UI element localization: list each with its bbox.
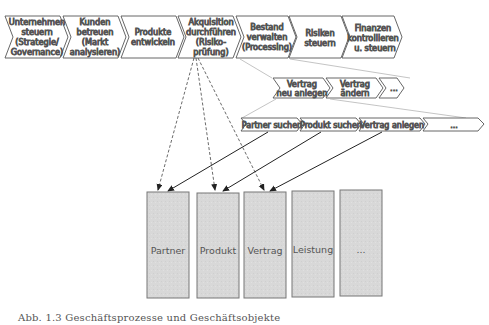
svg-text:Unternehmensteuern(Strategie/G: Unternehmensteuern(Strategie/Governance) [9, 17, 65, 57]
svg-text:Partner suchen: Partner suchen [242, 121, 302, 130]
svg-text:Leistung: Leistung [293, 244, 333, 255]
svg-text:Vertrag: Vertrag [248, 245, 283, 256]
svg-text:Produkt suchen: Produkt suchen [300, 121, 362, 130]
main-process-unternehmen-steuern[interactable]: Unternehmensteuern(Strategie/Governance) [5, 16, 68, 58]
sub-process-vertrag-aendern[interactable]: Vertragändern [326, 78, 383, 98]
sub-process-row: Vertragneu anlegen Vertragändern ... [273, 78, 404, 98]
svg-text:Vertrag anlegen: Vertrag anlegen [360, 121, 424, 130]
svg-text:Risikensteuern: Risikensteuern [304, 28, 335, 48]
process-diagram: Unternehmensteuern(Strategie/Governance)… [0, 0, 489, 325]
main-process-akquisition[interactable]: Akquisitiondurchführen(Risiko-prüfung) [178, 16, 241, 58]
step-produkt-suchen[interactable]: Produkt suchen [300, 118, 362, 131]
business-objects: Partner Produkt Vertrag Leistung ... [147, 190, 382, 298]
business-object-more[interactable]: ... [340, 190, 382, 296]
main-process-row: Unternehmensteuern(Strategie/Governance)… [5, 16, 402, 58]
svg-text:Produkt: Produkt [200, 245, 237, 256]
business-object-produkt[interactable]: Produkt [197, 193, 239, 298]
step-partner-suchen[interactable]: Partner suchen [241, 118, 302, 131]
business-object-vertrag[interactable]: Vertrag [244, 192, 286, 298]
main-process-produkte-entwickeln[interactable]: Produkteentwickeln [121, 16, 184, 58]
zoom-lines-level1 [240, 59, 410, 78]
step-row: Partner suchen Produkt suchen Vertrag an… [241, 118, 484, 131]
svg-text:Finanzenkontrollierenu. steuer: Finanzenkontrollierenu. steuern [347, 23, 398, 53]
main-process-risiken-steuern[interactable]: Risikensteuern [289, 16, 349, 58]
svg-text:Partner: Partner [151, 245, 186, 256]
main-process-bestand-verwalten[interactable]: Bestandverwalten(Processing) [236, 16, 296, 58]
main-process-kunden-betreuen[interactable]: Kundenbetreuen(Marktanalysieren) [63, 16, 126, 58]
step-vertrag-anlegen[interactable]: Vertrag anlegen [359, 118, 425, 131]
business-object-leistung[interactable]: Leistung [292, 191, 334, 297]
svg-text:...: ... [390, 83, 398, 93]
main-process-finanzen[interactable]: Finanzenkontrollierenu. steuern [342, 16, 402, 58]
step-more[interactable]: ... [423, 118, 484, 131]
svg-text:Produkteentwickeln: Produkteentwickeln [131, 27, 175, 47]
business-object-partner[interactable]: Partner [147, 192, 189, 298]
sub-process-vertrag-neu-anlegen[interactable]: Vertragneu anlegen [273, 78, 330, 98]
svg-text:Vertragändern: Vertragändern [340, 79, 370, 98]
svg-text:...: ... [356, 244, 365, 255]
solid-arrows [168, 132, 382, 191]
zoom-lines-level2 [242, 99, 466, 118]
figure-caption: Abb. 1.3 Geschäftsprozesse und Geschäfts… [18, 312, 280, 323]
svg-text:...: ... [450, 121, 458, 130]
